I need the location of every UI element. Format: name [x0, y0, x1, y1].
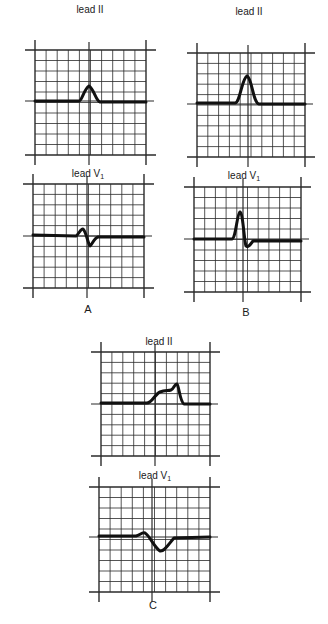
ecg-grids: [23, 40, 315, 602]
ecg-diagram: [0, 0, 328, 624]
ecg-traces: [33, 76, 305, 551]
